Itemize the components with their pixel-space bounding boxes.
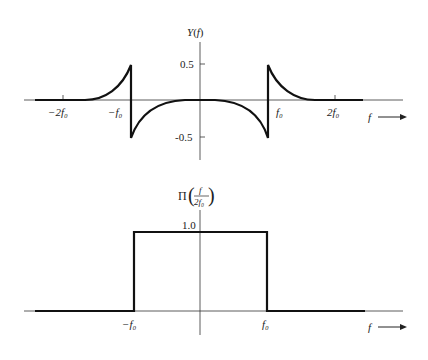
bottom-x-axis-label: f <box>368 321 373 333</box>
y-tick-label-neg-0.5: -0.5 <box>175 131 193 143</box>
x-tick-label-neg-f0: −f₀ <box>108 106 122 118</box>
bottom-plot: Π ( f 2f₀ ) 1.0 −f₀ f₀ f <box>24 184 407 335</box>
bottom-y-label: Π ( f 2f₀ ) <box>178 184 215 207</box>
x-tick-label-f0: f₀ <box>276 106 283 118</box>
bottom-x-tick-label-neg-f0: −f₀ <box>122 318 136 330</box>
top-x-axis-label: f <box>368 111 373 123</box>
svg-text:f: f <box>199 185 203 195</box>
x-tick-label-neg-2f0: −2f₀ <box>48 106 68 118</box>
arrow-right-icon <box>378 114 407 120</box>
y-tick-label-1.0: 1.0 <box>182 219 196 231</box>
diagram-canvas: Y(f) 0.5 -0.5 −2f₀ −f₀ f₀ 2f₀ f Π ( f 2f… <box>0 0 428 360</box>
y-tick-label-0.5: 0.5 <box>180 58 194 70</box>
x-tick-label-2f0: 2f₀ <box>327 106 340 118</box>
top-plot: Y(f) 0.5 -0.5 −2f₀ −f₀ f₀ 2f₀ f <box>24 26 407 160</box>
svg-text:): ) <box>208 184 215 207</box>
svg-text:2f₀: 2f₀ <box>194 197 204 207</box>
bottom-x-tick-label-f0: f₀ <box>262 318 269 330</box>
y-of-f-curve <box>35 65 363 138</box>
svg-text:Π: Π <box>178 189 187 203</box>
arrow-right-icon <box>378 324 407 330</box>
top-y-label: Y(f) <box>187 26 204 39</box>
